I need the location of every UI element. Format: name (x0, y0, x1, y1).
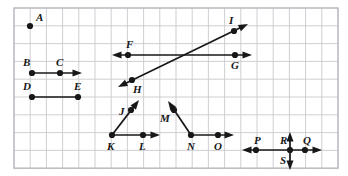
point-label-i: I (229, 15, 233, 26)
point-dot-d (29, 94, 35, 100)
ray-nm (168, 101, 191, 135)
line-pq-arrowhead-start (242, 147, 252, 154)
point-dot-l (140, 132, 146, 138)
ray-kj (112, 100, 139, 135)
line-hi-arrowhead-end (238, 24, 248, 31)
point-label-j: J (119, 106, 125, 117)
line-fg (112, 52, 252, 59)
line-fg-arrowhead-end (243, 52, 253, 59)
point-label-c: C (56, 57, 63, 68)
point-dot-o (215, 132, 221, 138)
point-label-p: P (254, 135, 261, 146)
point-label-l: L (139, 141, 146, 152)
point-dot-rs-intersection (287, 147, 293, 153)
point-dot-p (253, 147, 259, 153)
point-dot-g (232, 52, 238, 58)
point-dot-b (29, 70, 35, 76)
point-dot-q (302, 147, 308, 153)
point-label-a: A (36, 12, 43, 23)
point-label-h: H (133, 84, 142, 95)
point-label-s: S (280, 155, 286, 166)
point-label-m: M (160, 113, 170, 124)
point-label-q: Q (303, 135, 311, 146)
point-label-k: K (107, 141, 114, 152)
point-label-f: F (126, 39, 133, 50)
line-rs-arrowhead-start (287, 132, 294, 142)
point-dot-a (27, 23, 33, 29)
point-dot-j (128, 107, 134, 113)
point-dot-m (171, 107, 177, 113)
point-label-o: O (214, 141, 222, 152)
line-hi-arrowhead-start (118, 80, 128, 87)
point-dot-c (57, 70, 63, 76)
line-pq-arrowhead-end (313, 147, 323, 154)
ray-bc-arrowhead-end (73, 70, 83, 77)
geometry-figure: ABCDEFGHIJKLMNOPQRS (0, 0, 348, 176)
point-label-n: N (187, 141, 195, 152)
point-label-d: D (23, 81, 31, 92)
point-dot-f (125, 52, 131, 58)
point-label-r: R (280, 135, 287, 146)
line-fg-arrowhead-start (112, 52, 122, 59)
point-label-g: G (231, 60, 239, 71)
point-dot-n (188, 132, 194, 138)
point-label-b: B (23, 57, 30, 68)
point-dot-k (109, 132, 115, 138)
geometry-canvas (0, 0, 348, 176)
point-dot-e (75, 94, 81, 100)
points-layer (27, 23, 308, 153)
point-label-e: E (74, 81, 81, 92)
point-dot-i (231, 28, 237, 34)
